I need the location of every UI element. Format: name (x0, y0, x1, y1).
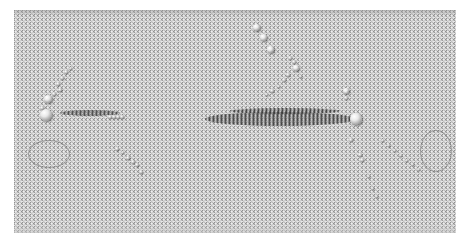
bead (277, 85, 280, 88)
bead (120, 115, 124, 119)
render-canvas (0, 0, 469, 242)
bead (411, 163, 414, 166)
curve-trace (28, 140, 70, 168)
bead (417, 168, 420, 171)
bead (60, 76, 64, 80)
bead (399, 154, 402, 157)
motion-streak (230, 108, 340, 114)
bead (292, 60, 296, 64)
bead (288, 56, 292, 60)
bead (360, 158, 364, 162)
bead (349, 138, 353, 142)
bead (56, 82, 60, 86)
bead (344, 96, 348, 100)
bead (282, 78, 286, 82)
bead (52, 92, 56, 96)
large-sphere (350, 113, 362, 125)
bead (115, 147, 119, 151)
bead (358, 153, 362, 157)
grid-bottom-shading (14, 224, 456, 233)
large-sphere (343, 88, 349, 94)
bead (299, 75, 302, 78)
bead (58, 88, 62, 92)
bead (139, 170, 143, 174)
large-sphere (267, 46, 274, 53)
large-sphere (260, 34, 267, 41)
bead (265, 93, 268, 96)
large-sphere (44, 95, 52, 103)
bead (126, 156, 130, 160)
large-sphere (293, 65, 299, 71)
bead (69, 67, 72, 70)
bead (64, 70, 68, 74)
bead (381, 139, 384, 142)
grid-top-shading (14, 10, 456, 16)
bead (286, 73, 290, 77)
bead (387, 144, 390, 147)
curve-trace (420, 130, 452, 172)
bead (135, 163, 139, 167)
bead (375, 195, 378, 198)
large-sphere (40, 109, 52, 121)
bead (121, 151, 124, 154)
bead (371, 187, 374, 190)
motion-streak (205, 112, 355, 126)
bead (270, 89, 274, 93)
bead (393, 149, 396, 152)
large-sphere (253, 24, 260, 31)
bead (405, 159, 408, 162)
bead (367, 175, 370, 178)
